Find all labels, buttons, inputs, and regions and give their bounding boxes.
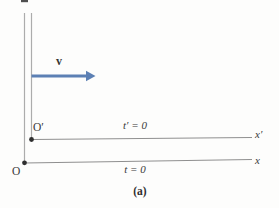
figure-caption: (a)	[133, 185, 146, 198]
origin-o-dot	[22, 160, 27, 165]
cropped-label-mark	[21, 0, 28, 2]
x-prime-axis-label: x′	[255, 128, 262, 140]
origin-o-label: O	[12, 165, 20, 178]
relativity-frames-figure: v O′ t′ = 0 x′ O t = 0 x (a)	[0, 0, 279, 208]
x-axis-label: x	[255, 154, 260, 166]
origin-o-prime-label: O′	[33, 121, 44, 134]
t-prime-zero-label: t′ = 0	[123, 119, 147, 131]
figure-canvas	[0, 0, 279, 208]
velocity-arrow-head	[86, 71, 96, 81]
velocity-label: v	[56, 55, 62, 68]
velocity-arrow-icon	[32, 71, 96, 81]
x-prime-axis-line	[32, 138, 253, 140]
t-zero-label: t = 0	[124, 163, 145, 175]
origin-o-prime-dot	[29, 137, 34, 142]
